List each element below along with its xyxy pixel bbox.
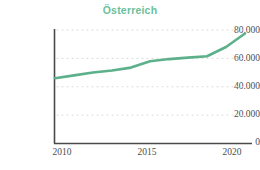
plot-area [0, 0, 260, 170]
data-series-group [55, 34, 245, 79]
series-line-0 [55, 34, 245, 79]
line-chart: Österreich 80.000 60.000 40.000 20.000 0… [0, 0, 260, 170]
